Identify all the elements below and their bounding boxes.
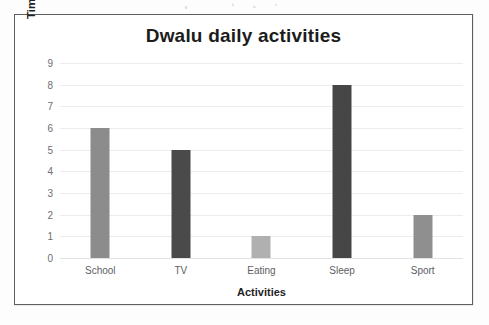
- y-axis-tick-label: 0: [47, 253, 53, 264]
- bar-tv: [171, 150, 190, 258]
- y-axis-tick-label: 3: [47, 187, 53, 198]
- y-axis-tick-label: 9: [47, 58, 53, 69]
- x-axis-tick-label: Eating: [247, 265, 275, 276]
- bar-sport: [413, 215, 432, 258]
- bar-sleep: [333, 85, 352, 258]
- chart-screenshot: Dwalu daily activities 0123456789 School…: [0, 0, 489, 325]
- bar-group: TV: [141, 63, 222, 258]
- chart-title: Dwalu daily activities: [15, 25, 472, 47]
- bar-group: School: [60, 63, 141, 258]
- chart-frame: Dwalu daily activities 0123456789 School…: [14, 14, 473, 305]
- y-axis-tick-label: 2: [47, 209, 53, 220]
- x-axis-tick-label: School: [85, 265, 116, 276]
- y-axis-tick-label: 6: [47, 122, 53, 133]
- bar-group: Sport: [382, 63, 463, 258]
- x-axis-tick-label: Sleep: [329, 265, 355, 276]
- y-axis-tick-label: 1: [47, 231, 53, 242]
- y-axis-tick-label: 7: [47, 101, 53, 112]
- bar-group: Eating: [221, 63, 302, 258]
- x-axis-tick-label: TV: [175, 265, 188, 276]
- y-axis-title: Time in hours: [23, 0, 39, 79]
- x-axis-title: Activities: [60, 286, 463, 298]
- gridline: 0: [60, 258, 463, 259]
- plot-area: 0123456789 SchoolTVEatingSleepSport: [60, 63, 463, 258]
- y-axis-tick-label: 8: [47, 79, 53, 90]
- x-axis-tick-label: Sport: [411, 265, 435, 276]
- bars-layer: SchoolTVEatingSleepSport: [60, 63, 463, 258]
- scan-artifact: [150, 2, 330, 11]
- y-axis-tick-label: 4: [47, 166, 53, 177]
- bar-group: Sleep: [302, 63, 383, 258]
- bar-eating: [252, 236, 271, 258]
- y-axis-tick-label: 5: [47, 144, 53, 155]
- bar-school: [91, 128, 110, 258]
